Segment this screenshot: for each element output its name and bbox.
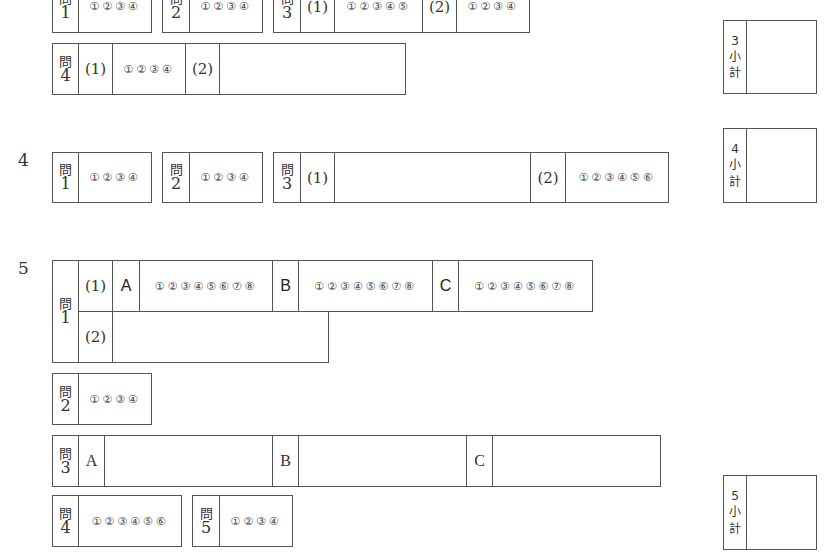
s3-subtotal-box: 3 小 計 — [723, 20, 817, 94]
s4-q2-box: 問 2 ①②③④ — [162, 152, 263, 203]
s5-q2-box: 問 2 ①②③④ — [52, 373, 152, 425]
s4-q3-box: 問 3 (1) (2) ①②③④⑤⑥ — [273, 152, 669, 203]
s4-q1-label: 問 1 — [53, 153, 79, 202]
s5-q3-b-answer[interactable] — [299, 436, 467, 486]
s5-q1-a-choices[interactable]: ①②③④⑤⑥⑦⑧ — [140, 261, 273, 311]
s5-q1-part2-row: (2) — [78, 311, 329, 363]
s5-q3-label: 問 3 — [53, 436, 79, 486]
s5-q5-choices[interactable]: ①②③④ — [220, 496, 292, 546]
s5-q5-label: 問 5 — [193, 496, 220, 546]
s5-q1-part2-label: (2) — [79, 312, 113, 362]
s5-q3-b-label: B — [273, 436, 299, 486]
s3-q4-label: 問 4 — [53, 44, 79, 94]
s3-q3-part2-label: (2) — [423, 0, 457, 32]
s5-subtotal-box: 5 小 計 — [723, 475, 817, 550]
s5-q1-part1-label: (1) — [79, 261, 113, 311]
s4-subtotal-label: 4 小 計 — [724, 129, 747, 202]
s5-q2-choices[interactable]: ①②③④ — [79, 374, 151, 424]
s3-q4-part2-answer[interactable] — [220, 44, 405, 94]
s5-q3-a-answer[interactable] — [105, 436, 273, 486]
s5-q1-b-choices[interactable]: ①②③④⑤⑥⑦⑧ — [299, 261, 433, 311]
s5-q2-label: 問 2 — [53, 374, 79, 424]
s4-q2-choices[interactable]: ①②③④ — [190, 153, 262, 202]
s4-q3-part2-choices[interactable]: ①②③④⑤⑥ — [566, 153, 668, 202]
s4-q1-choices[interactable]: ①②③④ — [79, 153, 151, 202]
s5-q1-a-label: A — [113, 261, 140, 311]
s5-q1-b-label: B — [273, 261, 299, 311]
s5-subtotal-label: 5 小 計 — [724, 476, 747, 549]
s5-q1-c-choices[interactable]: ①②③④⑤⑥⑦⑧ — [459, 261, 592, 311]
s5-q4-label: 問 4 — [53, 496, 79, 546]
s4-q3-part1-answer[interactable] — [335, 153, 531, 202]
s5-q1-part1-row: (1) A ①②③④⑤⑥⑦⑧ B ①②③④⑤⑥⑦⑧ C ①②③④⑤⑥⑦⑧ — [78, 260, 593, 312]
s3-q4-box: 問 4 (1) ①②③④ (2) — [52, 43, 406, 95]
s3-q2-choices[interactable]: ①②③④ — [190, 0, 262, 32]
s3-q1-choices[interactable]: ①②③④ — [79, 0, 151, 32]
s4-q3-label: 問 3 — [274, 153, 301, 202]
s3-subtotal-label: 3 小 計 — [724, 21, 747, 93]
s3-q3-part1-label: (1) — [301, 0, 335, 32]
s5-q4-choices[interactable]: ①②③④⑤⑥ — [79, 496, 181, 546]
s5-q5-box: 問 5 ①②③④ — [192, 495, 293, 547]
s3-q1-label: 問 1 — [53, 0, 79, 32]
s3-subtotal-score[interactable] — [746, 21, 816, 93]
s4-q3-part1-label: (1) — [301, 153, 335, 202]
s4-q3-part2-label: (2) — [531, 153, 566, 202]
section-5-number: 5 — [18, 258, 29, 278]
section-4-number: 4 — [18, 150, 29, 170]
s5-subtotal-score[interactable] — [746, 476, 816, 549]
s3-q4-part2-label: (2) — [186, 44, 220, 94]
s3-q2-box: 問 2 ①②③④ — [162, 0, 263, 33]
s3-q1-box: 問 1 ①②③④ — [52, 0, 152, 33]
s5-q1-part2-answer[interactable] — [113, 312, 328, 362]
s5-q3-c-answer[interactable] — [493, 436, 660, 486]
s4-subtotal-box: 4 小 計 — [723, 128, 817, 203]
s5-q4-box: 問 4 ①②③④⑤⑥ — [52, 495, 182, 547]
s4-q2-label: 問 2 — [163, 153, 190, 202]
s5-q3-box: 問 3 A B C — [52, 435, 661, 487]
s3-q3-label: 問 3 — [274, 0, 301, 32]
s3-q2-label: 問 2 — [163, 0, 190, 32]
s4-subtotal-score[interactable] — [746, 129, 816, 202]
s3-q3-box: 問 3 (1) ①②③④⑤ (2) ①②③④ — [273, 0, 530, 33]
s5-q1-label: 問 1 — [53, 261, 78, 362]
s3-q4-part1-choices[interactable]: ①②③④ — [113, 44, 186, 94]
s5-q1-label-box: 問 1 — [52, 260, 79, 363]
s3-q3-part2-choices[interactable]: ①②③④ — [457, 0, 529, 32]
s5-q3-c-label: C — [467, 436, 493, 486]
s5-q1-c-label: C — [433, 261, 459, 311]
s5-q3-a-label: A — [79, 436, 105, 486]
s3-q4-part1-label: (1) — [79, 44, 113, 94]
s4-q1-box: 問 1 ①②③④ — [52, 152, 152, 203]
s3-q3-part1-choices[interactable]: ①②③④⑤ — [335, 0, 423, 32]
